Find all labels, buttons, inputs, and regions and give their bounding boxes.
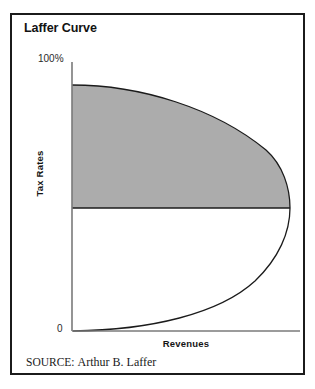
source-value: Arthur B. Laffer — [78, 355, 157, 369]
y-axis-tick-label-100: 100% — [38, 53, 64, 64]
figure-title: Laffer Curve — [24, 20, 97, 35]
source-note: SOURCE:Arthur B. Laffer — [26, 355, 156, 370]
figure-border — [10, 13, 305, 375]
source-label: SOURCE: — [26, 356, 75, 368]
x-axis-title: Revenues — [72, 338, 300, 349]
y-axis-tick-label-0: 0 — [57, 323, 63, 334]
laffer-curve-figure: Laffer Curve 100% 0 Tax Rates Revenues S… — [0, 0, 315, 389]
y-axis-title: Tax Rates — [34, 129, 45, 219]
